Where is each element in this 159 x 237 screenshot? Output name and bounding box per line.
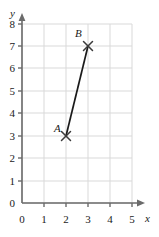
- point-b-label: B: [75, 28, 82, 39]
- y-tick-label-5: 5: [3, 86, 15, 97]
- y-tick-label-7: 7: [3, 41, 15, 52]
- horizontal-gridlines: [22, 24, 132, 203]
- x-tick-label-3: 3: [81, 214, 95, 225]
- x-tick-label-5: 5: [125, 214, 139, 225]
- x-axis-label: x: [145, 213, 150, 224]
- x-tick-label-2: 2: [59, 214, 73, 225]
- x-tick-label-1: 1: [37, 214, 51, 225]
- y-tick-label-6: 6: [3, 63, 15, 74]
- x-tick-label-4: 4: [103, 214, 117, 225]
- y-tick-label-8: 8: [3, 19, 15, 30]
- coordinate-plane-chart: y x 8 7 6 5 4 3 2 1 0 0 1 2 3 4 5 A B: [0, 0, 159, 237]
- x-tick-label-0: 0: [15, 214, 29, 225]
- y-tick-label-0: 0: [3, 198, 15, 209]
- x-axis-arrowhead: [137, 200, 145, 207]
- y-tick-label-4: 4: [3, 108, 15, 119]
- x-axis: [22, 200, 145, 207]
- point-a-label: A: [54, 123, 61, 134]
- y-axis: [19, 13, 26, 203]
- y-tick-label-1: 1: [3, 176, 15, 187]
- y-tick-label-3: 3: [3, 131, 15, 142]
- y-axis-arrowhead: [19, 13, 26, 21]
- y-tick-label-2: 2: [3, 153, 15, 164]
